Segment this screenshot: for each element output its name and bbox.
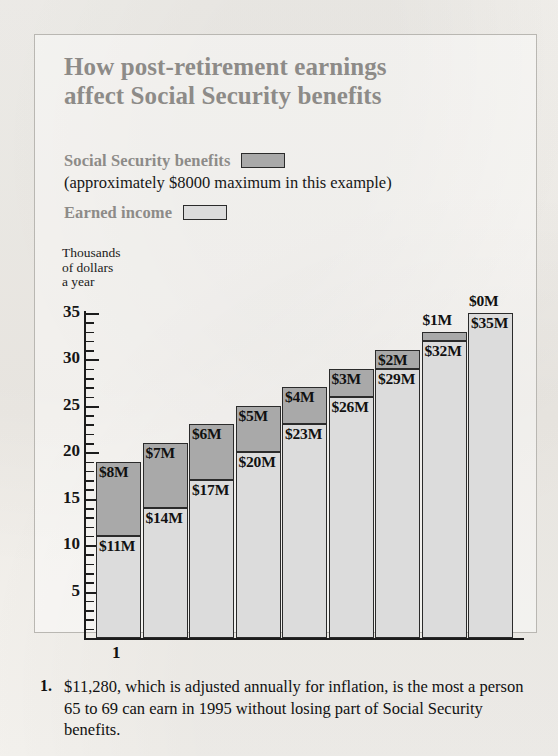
bar-label-earned-income: $14M [146, 509, 183, 527]
bar-column[interactable]: $29M$2M [375, 350, 420, 638]
bar-segment-earned-income[interactable] [189, 480, 234, 638]
bar-column[interactable]: $23M$4M [282, 387, 327, 638]
bar-label-benefits: $1M [423, 311, 453, 329]
bar-segment-earned-income[interactable] [236, 452, 281, 638]
bar-column[interactable]: $26M$3M [329, 369, 374, 638]
bar-label-benefits: $4M [285, 388, 315, 406]
bar-label-benefits: $6M [192, 425, 222, 443]
bar-segment-earned-income[interactable] [329, 397, 374, 638]
bar-column[interactable]: $14M$7M [143, 443, 188, 638]
bar-label-benefits: $0M [469, 292, 499, 310]
bar-label-earned-income: $32M [425, 342, 462, 360]
bar-label-earned-income: $20M [239, 453, 276, 471]
bar-column[interactable]: $20M$5M [236, 406, 281, 638]
bar-column[interactable]: $35M$0M [468, 313, 513, 638]
bar-column[interactable]: $11M$8M [96, 462, 141, 638]
bar-label-benefits: $7M [146, 444, 176, 462]
bar-label-benefits: $8M [99, 463, 129, 481]
footnote-text: $11,280, which is adjusted annually for … [64, 676, 530, 741]
footnote-number: 1. [40, 676, 64, 741]
bar-label-earned-income: $35M [471, 314, 508, 332]
bar-segment-benefits[interactable] [422, 332, 467, 341]
bar-column[interactable]: $17M$6M [189, 424, 234, 638]
bar-label-earned-income: $23M [285, 425, 322, 443]
bar-label-benefits: $2M [378, 351, 408, 369]
bar-segment-earned-income[interactable] [422, 341, 467, 638]
footnote-marker: 1 [112, 643, 121, 663]
bar-segment-earned-income[interactable] [282, 424, 327, 638]
bar-label-earned-income: $26M [332, 398, 369, 416]
bar-segment-earned-income[interactable] [375, 369, 420, 638]
bar-segment-earned-income[interactable] [468, 313, 513, 638]
bar-column[interactable]: $32M$1M [422, 332, 467, 638]
footnote: 1. $11,280, which is adjusted annually f… [40, 676, 530, 741]
plot-area: 5101520253035 $11M$8M$14M$7M$17M$6M$20M$… [0, 0, 558, 756]
bar-label-benefits: $5M [239, 407, 269, 425]
bar-label-benefits: $3M [332, 370, 362, 388]
bar-label-earned-income: $17M [192, 481, 229, 499]
bar-label-earned-income: $29M [378, 370, 415, 388]
bar-series-group: $11M$8M$14M$7M$17M$6M$20M$5M$23M$4M$26M$… [0, 0, 558, 756]
bar-segment-earned-income[interactable] [143, 508, 188, 638]
bar-label-earned-income: $11M [99, 537, 135, 555]
